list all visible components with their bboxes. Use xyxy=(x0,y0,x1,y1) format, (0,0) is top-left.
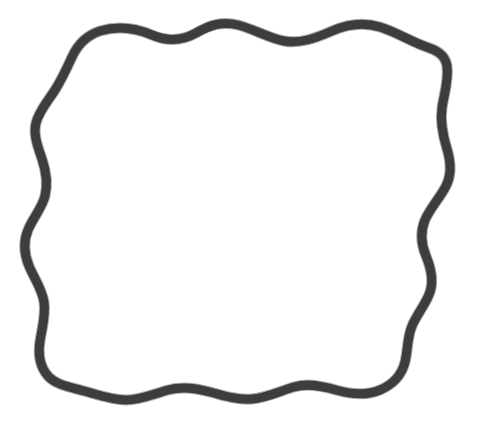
drawing-canvas xyxy=(0,0,481,433)
wavy-square-figure xyxy=(0,0,481,433)
